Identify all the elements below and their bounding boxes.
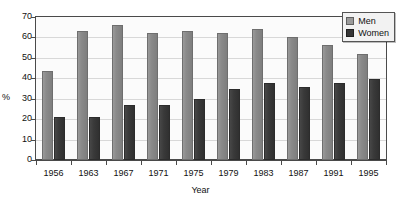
- bar-men-1963: [77, 31, 88, 160]
- y-tick-label: 20: [2, 114, 32, 123]
- y-axis-line: [35, 16, 36, 160]
- bar-men-1971: [147, 33, 158, 160]
- bar-women-1983: [264, 83, 275, 160]
- x-tick-label: 1983: [244, 168, 284, 178]
- bar-women-1971: [159, 105, 170, 160]
- bar-men-1956: [42, 71, 53, 160]
- bar-men-1987: [287, 37, 298, 160]
- x-tick-label: 1979: [209, 168, 249, 178]
- y-tick-label: 0: [2, 155, 32, 164]
- y-tick-mark: [31, 58, 35, 59]
- bar-men-1995: [357, 54, 368, 160]
- y-axis-title: %: [2, 92, 10, 102]
- y-tick-mark: [31, 17, 35, 18]
- x-axis-title: Year: [0, 185, 401, 195]
- x-tick-mark: [316, 160, 317, 165]
- y-tick-label: 50: [2, 53, 32, 62]
- legend-swatch-icon: [346, 17, 354, 25]
- y-tick-mark: [31, 78, 35, 79]
- bar-women-1963: [89, 117, 100, 160]
- legend-label: Men: [358, 16, 376, 26]
- x-tick-label: 1987: [279, 168, 319, 178]
- legend-label: Women: [358, 28, 389, 38]
- x-tick-label: 1956: [34, 168, 74, 178]
- x-tick-label: 1971: [139, 168, 179, 178]
- y-axis-labels: 010203040506070: [0, 0, 32, 206]
- legend-swatch-icon: [346, 29, 354, 37]
- x-tick-mark: [351, 160, 352, 165]
- x-tick-mark: [386, 160, 387, 165]
- y-tick-label: 60: [2, 32, 32, 41]
- legend-item-men: Men: [346, 15, 389, 27]
- bar-women-1991: [334, 83, 345, 160]
- y-tick-label: 40: [2, 73, 32, 82]
- x-tick-mark: [71, 160, 72, 165]
- x-tick-label: 1995: [349, 168, 389, 178]
- bar-men-1979: [217, 33, 228, 160]
- x-tick-mark: [106, 160, 107, 165]
- x-tick-label: 1963: [69, 168, 109, 178]
- bar-chart: 010203040506070 % 1956196319671971197519…: [0, 0, 401, 206]
- y-tick-label: 70: [2, 12, 32, 21]
- x-tick-mark: [141, 160, 142, 165]
- x-tick-label: 1975: [174, 168, 214, 178]
- x-tick-mark: [211, 160, 212, 165]
- x-tick-label: 1967: [104, 168, 144, 178]
- y-tick-mark: [31, 140, 35, 141]
- x-tick-mark: [36, 160, 37, 165]
- bar-women-1995: [369, 79, 380, 160]
- bar-men-1975: [182, 31, 193, 160]
- bar-women-1956: [54, 117, 65, 160]
- bar-women-1987: [299, 87, 310, 160]
- bar-men-1991: [322, 45, 333, 160]
- x-tick-label: 1991: [314, 168, 354, 178]
- bar-women-1979: [229, 89, 240, 161]
- x-tick-mark: [176, 160, 177, 165]
- x-tick-mark: [281, 160, 282, 165]
- bar-men-1967: [112, 25, 123, 160]
- legend: Men Women: [342, 12, 395, 42]
- y-tick-mark: [31, 37, 35, 38]
- x-tick-mark: [246, 160, 247, 165]
- bar-women-1967: [124, 105, 135, 160]
- y-tick-label: 10: [2, 135, 32, 144]
- y-tick-mark: [31, 160, 35, 161]
- y-tick-mark: [31, 99, 35, 100]
- bar-women-1975: [194, 99, 205, 160]
- bars-layer: [36, 17, 386, 160]
- legend-item-women: Women: [346, 27, 389, 39]
- bar-men-1983: [252, 29, 263, 160]
- y-tick-mark: [31, 119, 35, 120]
